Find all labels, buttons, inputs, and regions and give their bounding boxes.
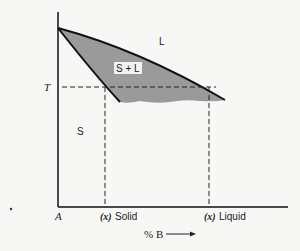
origin-label: A	[54, 210, 62, 222]
arrow-right-icon	[190, 232, 196, 237]
liquid-tick-prefix: (x)	[204, 211, 216, 223]
phase-diagram: S + L L S T A (x) Solid (x) Liquid % B	[0, 0, 300, 251]
solid-tick-label: Solid	[115, 211, 137, 222]
x-axis-label: % B	[144, 228, 163, 240]
two-phase-label: S + L	[116, 63, 140, 74]
stray-dot	[10, 208, 12, 210]
solid-region-label: S	[77, 126, 84, 137]
temperature-label: T	[44, 81, 51, 93]
solid-tick-prefix: (x)	[100, 211, 112, 223]
liquid-tick-label: Liquid	[219, 211, 246, 222]
liquid-region-label: L	[159, 36, 165, 47]
